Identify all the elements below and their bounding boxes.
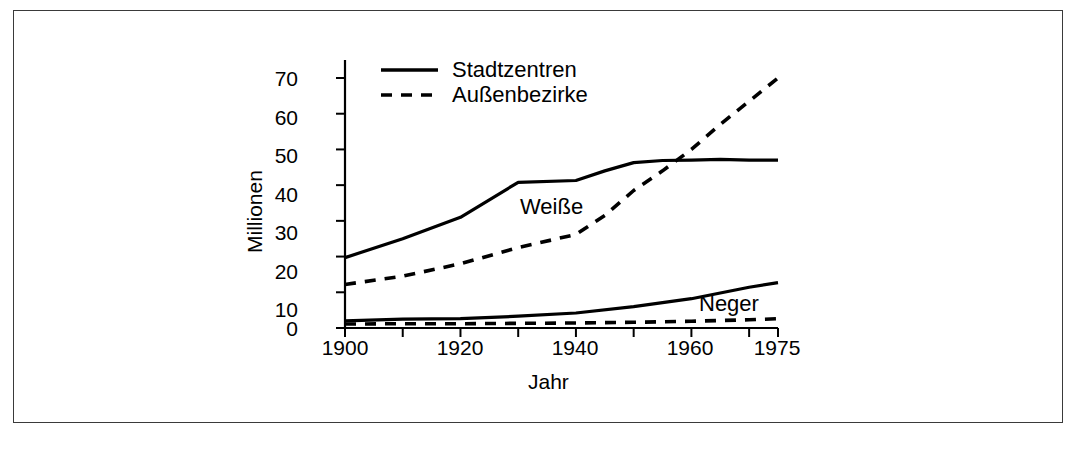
x-tick-label-1900: 1900 — [305, 337, 385, 358]
page-canvas: 70 60 50 40 30 20 10 0 Millionen 1900 19… — [0, 0, 1084, 452]
x-tick-label-1960: 1960 — [650, 337, 730, 358]
y-tick-label-50: 50 — [258, 145, 298, 166]
x-tick-label-1975: 1975 — [737, 337, 817, 358]
annotation-weisse: Weiße — [520, 196, 583, 218]
x-tick-label-1920: 1920 — [420, 337, 500, 358]
legend-label-aussenbezirke: Außenbezirke — [452, 84, 588, 106]
annotation-neger: Neger — [699, 293, 759, 315]
legend-label-stadtzentren: Stadtzentren — [452, 59, 577, 81]
y-tick-label-0: 0 — [258, 318, 298, 339]
y-tick-label-60: 60 — [258, 107, 298, 128]
x-axis-title: Jahr — [528, 371, 569, 392]
y-tick-label-20: 20 — [258, 261, 298, 282]
x-tick-label-1940: 1940 — [535, 337, 615, 358]
y-axis-ticks — [336, 78, 345, 328]
legend-line-samples — [381, 70, 438, 95]
y-tick-label-70: 70 — [258, 68, 298, 89]
y-axis-title: Millionen — [244, 170, 265, 253]
